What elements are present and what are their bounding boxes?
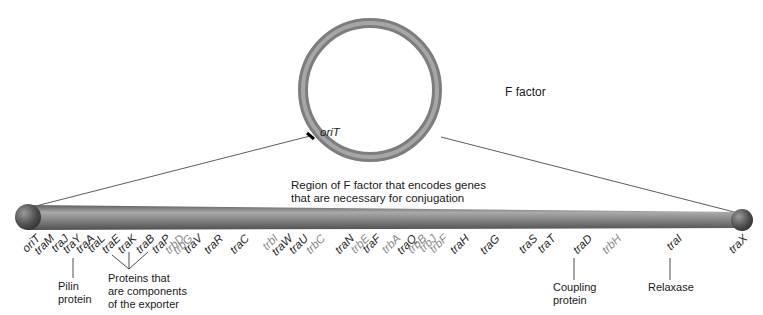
coupling-annotation: Coupling protein	[553, 281, 596, 307]
relaxase-annotation: Relaxase	[648, 281, 694, 294]
zoom-line-right	[441, 137, 742, 214]
rod-cap-right	[731, 209, 753, 231]
orit-label: oriT	[320, 125, 340, 139]
pilin-line-2: protein	[58, 293, 92, 306]
relaxase-line-1: Relaxase	[648, 281, 694, 294]
pilin-line-1: Pilin	[58, 280, 92, 293]
coupling-line-1: Coupling	[553, 281, 596, 294]
exporter-line-2: are components	[108, 285, 187, 298]
exporter-annotation: Proteins that are components of the expo…	[108, 272, 187, 311]
coupling-line-2: protein	[553, 294, 596, 307]
exporter-leader-trap	[129, 252, 148, 269]
f-factor-label: F factor	[505, 85, 546, 99]
conjugation-region-rod	[28, 205, 742, 230]
exporter-line-3: of the exporter	[108, 298, 187, 311]
diagram-canvas	[0, 0, 763, 315]
exporter-line-1: Proteins that	[108, 272, 187, 285]
zoom-line-left	[28, 136, 310, 208]
exporter-leader-trak	[112, 255, 129, 269]
rod-cap-left	[15, 204, 41, 230]
pilin-annotation: Pilin protein	[58, 280, 92, 306]
region-caption-line-2: that are necessary for conjugation	[291, 191, 464, 205]
region-caption-line-1: Region of F factor that encodes genes	[291, 178, 486, 192]
